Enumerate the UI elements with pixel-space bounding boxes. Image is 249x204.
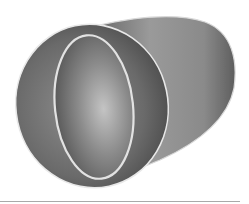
baseline-divider [0, 201, 240, 202]
oval-tube-illustration [0, 0, 249, 204]
tube-graphic [0, 0, 249, 204]
